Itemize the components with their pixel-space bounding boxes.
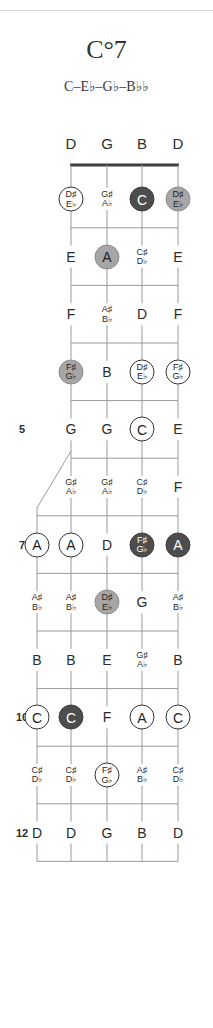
note-8-2[interactable]: A♯B♭ <box>66 593 77 612</box>
note-4-2[interactable]: B <box>102 365 111 379</box>
note-dot-label: C <box>66 710 76 724</box>
note-dot-5-3[interactable]: C <box>130 417 155 442</box>
note-dot-7-4[interactable]: F♯G♭ <box>130 532 155 557</box>
note-dot-1-4[interactable]: D♯E♭ <box>166 187 191 212</box>
note-1-2[interactable]: G♯A♭ <box>101 190 113 209</box>
note-dot-10-1[interactable]: C <box>25 705 50 730</box>
note-dot-label: D♯E♭ <box>102 593 113 612</box>
note-dot-1-3[interactable]: C <box>130 187 155 212</box>
note-5-4[interactable]: E <box>173 422 182 436</box>
note-3-4[interactable]: F <box>174 307 183 321</box>
string-name-3: B <box>137 136 147 151</box>
note-8-1[interactable]: A♯B♭ <box>32 593 43 612</box>
note-dot-label: F♯G♭ <box>172 362 183 381</box>
note-6-1[interactable]: G♯A♭ <box>65 478 77 497</box>
fret-marker-12: 12 <box>16 827 28 838</box>
note-11-1[interactable]: C♯D♭ <box>32 766 43 785</box>
note-2-4[interactable]: E <box>173 250 182 264</box>
note-12-2[interactable]: D <box>66 826 76 840</box>
note-dot-10-5[interactable]: C <box>166 705 191 730</box>
note-12-1[interactable]: D <box>32 826 42 840</box>
note-11-2[interactable]: C♯D♭ <box>66 766 77 785</box>
note-12-5[interactable]: D <box>173 826 183 840</box>
note-2-3[interactable]: C♯D♭ <box>137 247 148 266</box>
note-dot-10-4[interactable]: A <box>130 705 155 730</box>
note-8-5[interactable]: A♯B♭ <box>173 593 184 612</box>
note-dot-label: F♯G♭ <box>101 766 112 785</box>
note-dot-2-2[interactable]: A <box>95 244 120 269</box>
note-11-4[interactable]: A♯B♭ <box>137 766 148 785</box>
note-dot-label: C <box>137 422 147 436</box>
note-8-4[interactable]: G <box>137 595 148 609</box>
note-dot-label: D♯E♭ <box>173 190 184 209</box>
string-name-1: D <box>66 136 77 151</box>
note-2-1[interactable]: E <box>66 250 75 264</box>
note-dot-label: C <box>173 710 183 724</box>
note-dot-label: F♯G♭ <box>136 535 147 554</box>
note-dot-7-1[interactable]: A <box>25 532 50 557</box>
note-5-2[interactable]: G <box>102 422 113 436</box>
note-dot-11-3[interactable]: F♯G♭ <box>95 763 120 788</box>
note-dot-label: A <box>32 538 41 552</box>
note-5-1[interactable]: G <box>66 422 77 436</box>
note-dot-4-3[interactable]: D♯E♭ <box>130 359 155 384</box>
fret-marker-5: 5 <box>19 424 25 435</box>
note-3-1[interactable]: F <box>67 307 76 321</box>
fretboard[interactable]: DGBDD♯E♭G♯A♭CD♯E♭EAC♯D♭EFA♯B♭DFF♯G♭BD♯E♭… <box>0 0 213 1028</box>
string-name-2: G <box>101 136 113 151</box>
note-7-3[interactable]: D <box>102 538 112 552</box>
note-9-2[interactable]: B <box>66 653 75 667</box>
note-3-2[interactable]: A♯B♭ <box>102 305 113 324</box>
note-dot-7-5[interactable]: A <box>166 532 191 557</box>
note-6-4[interactable]: F <box>174 480 183 494</box>
note-dot-label: D♯E♭ <box>66 190 77 209</box>
note-dot-label: A <box>137 710 146 724</box>
note-9-4[interactable]: G♯A♭ <box>136 650 148 669</box>
note-dot-4-1[interactable]: F♯G♭ <box>59 359 84 384</box>
note-dot-7-2[interactable]: A <box>59 532 84 557</box>
string-name-4: D <box>173 136 184 151</box>
note-9-5[interactable]: B <box>173 653 182 667</box>
note-11-5[interactable]: C♯D♭ <box>173 766 184 785</box>
note-12-3[interactable]: G <box>102 826 113 840</box>
note-dot-label: A <box>102 250 111 264</box>
note-3-3[interactable]: D <box>137 307 147 321</box>
note-dot-label: C <box>32 710 42 724</box>
note-12-4[interactable]: B <box>137 826 146 840</box>
note-dot-label: F♯G♭ <box>65 362 76 381</box>
note-dot-10-2[interactable]: C <box>59 705 84 730</box>
note-6-2[interactable]: G♯A♭ <box>101 478 113 497</box>
note-dot-8-3[interactable]: D♯E♭ <box>95 590 120 615</box>
note-dot-1-1[interactable]: D♯E♭ <box>59 187 84 212</box>
note-10-3[interactable]: F <box>103 710 112 724</box>
note-9-1[interactable]: B <box>32 653 41 667</box>
note-6-3[interactable]: C♯D♭ <box>137 478 148 497</box>
note-dot-label: A <box>66 538 75 552</box>
chord-diagram-page: C°7 C–E♭–G♭–B♭♭ DGBDD♯E♭G♯A♭CD♯E♭EAC♯D♭E… <box>0 0 213 1028</box>
note-9-3[interactable]: E <box>102 653 111 667</box>
note-dot-label: A <box>173 538 182 552</box>
fretboard-lines <box>0 0 213 1028</box>
note-dot-label: C <box>137 192 147 206</box>
note-dot-4-4[interactable]: F♯G♭ <box>166 359 191 384</box>
note-dot-label: D♯E♭ <box>137 362 148 381</box>
